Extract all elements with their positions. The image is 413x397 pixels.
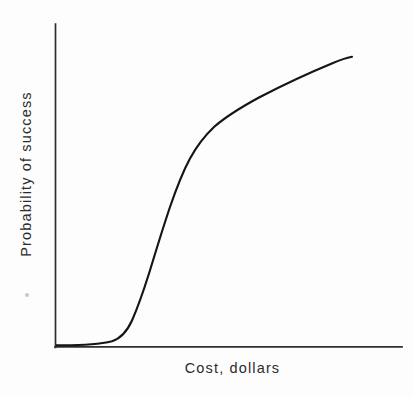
y-axis-label: Probability of success [18, 91, 34, 257]
figure-container: Probability of success Cost, dollars [0, 0, 413, 397]
x-axis-label: Cost, dollars [0, 360, 413, 376]
sigmoid-plot [0, 0, 413, 397]
probability-of-success-curve [57, 57, 352, 345]
y-axis-label-wrapper: Probability of success [0, 0, 52, 347]
